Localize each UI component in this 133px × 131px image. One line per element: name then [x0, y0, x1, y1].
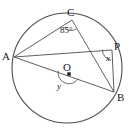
point-label-B: B: [117, 92, 124, 103]
point-label-A: A: [2, 51, 10, 62]
point-label-P: P: [114, 41, 120, 52]
point-label-O: O: [63, 62, 71, 73]
segment-PB: [112, 50, 114, 92]
angle-label-y: y: [57, 82, 61, 91]
angle-label-85-degrees: 85°: [60, 26, 73, 35]
angle-label-x: x: [106, 54, 110, 63]
segment-AP: [14, 50, 112, 57]
point-label-C: C: [67, 7, 74, 18]
circle-geometry-figure: A C P B O 85° x y: [0, 0, 133, 131]
